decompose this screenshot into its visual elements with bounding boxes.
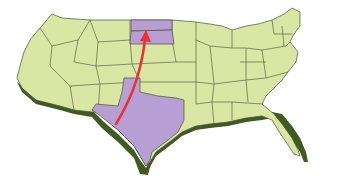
us-map-svg [0,0,337,176]
state-north-dakota [131,20,172,31]
us-map: United States map, 3D extruded style [0,0,337,176]
state-south-dakota [130,30,174,44]
